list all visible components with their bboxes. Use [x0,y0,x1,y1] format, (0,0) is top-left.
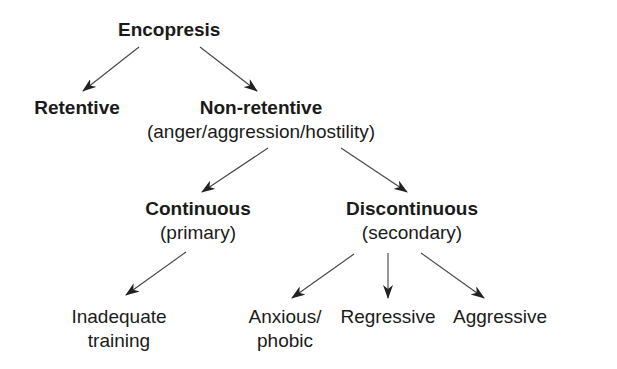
arrow-encopresis-nonretentive [200,47,257,91]
node-anxious-phobic: Anxious/ phobic [244,305,326,353]
arrow-encopresis-retentive [83,47,139,91]
node-encopresis: Encopresis [118,18,218,42]
node-anxious-line1: Anxious/ [244,305,326,329]
node-non-retentive-sublabel: (anger/aggression/hostility) [146,120,376,144]
node-continuous-sublabel: (primary) [138,221,258,245]
arrow-continuous-inadequate [126,252,186,295]
node-retentive: Retentive [30,96,124,120]
node-inadequate-training: Inadequate training [62,305,176,353]
arrow-nonretentive-discontinuous [341,148,407,192]
node-non-retentive: Non-retentive [186,96,336,120]
node-inadequate-line2: training [62,329,176,353]
node-regressive: Regressive [334,305,442,329]
node-discontinuous-sublabel: (secondary) [342,221,482,245]
node-anxious-line2: phobic [244,329,326,353]
node-inadequate-line1: Inadequate [62,305,176,329]
node-discontinuous: Discontinuous [330,197,494,221]
node-aggressive: Aggressive [446,305,554,329]
arrow-nonretentive-continuous [202,148,268,192]
arrow-discontinuous-anxious [292,254,354,298]
node-continuous: Continuous [128,197,268,221]
arrow-discontinuous-aggressive [421,253,484,298]
